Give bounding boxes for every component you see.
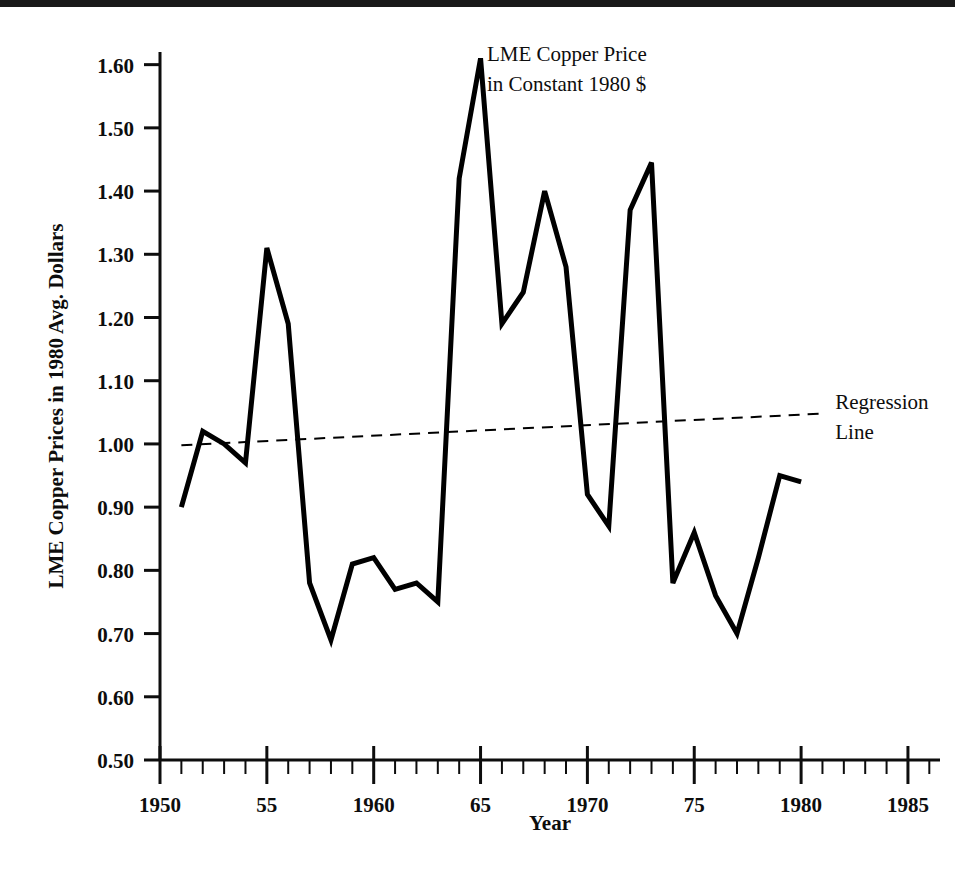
chart-page: 0.500.600.700.800.901.001.101.201.301.40… xyxy=(0,0,955,880)
annotation-layer: LME Copper Pricein Constant 1980 $Regres… xyxy=(487,42,929,444)
y-axis-tick-labels: 0.500.600.700.800.901.001.101.201.301.40… xyxy=(97,54,134,773)
data-series-layer xyxy=(181,58,822,640)
y-tick-label: 0.90 xyxy=(97,496,134,520)
x-axis-major-ticks xyxy=(160,746,908,784)
y-tick-label: 1.20 xyxy=(97,307,134,331)
series-label: LME Copper Price xyxy=(487,42,647,66)
y-axis-ticks xyxy=(144,65,160,760)
x-tick-label: 1980 xyxy=(780,793,822,817)
x-tick-label: 55 xyxy=(256,793,277,817)
copper-price-line-chart: 0.500.600.700.800.901.001.101.201.301.40… xyxy=(0,0,955,880)
x-tick-label: 1985 xyxy=(887,793,929,817)
y-tick-label: 0.60 xyxy=(97,686,134,710)
y-axis-title: LME Copper Prices in 1980 Avg. Dollars xyxy=(44,224,68,589)
y-tick-label: 1.00 xyxy=(97,433,134,457)
price-line xyxy=(181,58,801,640)
x-tick-label: 1960 xyxy=(353,793,395,817)
regression-label: Regression xyxy=(835,390,929,414)
y-tick-label: 1.40 xyxy=(97,180,134,204)
y-tick-label: 1.50 xyxy=(97,117,134,141)
y-tick-label: 0.80 xyxy=(97,559,134,583)
y-tick-label: 1.30 xyxy=(97,243,134,267)
x-axis-title: Year xyxy=(529,811,571,835)
series-label: in Constant 1980 $ xyxy=(487,72,646,96)
y-tick-label: 1.10 xyxy=(97,370,134,394)
plot-area: 0.500.600.700.800.901.001.101.201.301.40… xyxy=(97,42,940,817)
y-tick-label: 1.60 xyxy=(97,54,134,78)
x-tick-label: 75 xyxy=(684,793,705,817)
regression-label: Line xyxy=(835,420,873,444)
y-tick-label: 0.50 xyxy=(97,749,134,773)
y-tick-label: 0.70 xyxy=(97,623,134,647)
x-tick-label: 65 xyxy=(470,793,491,817)
regression-line xyxy=(181,414,822,446)
x-axis-minor-ticks xyxy=(181,760,929,774)
x-tick-label: 1950 xyxy=(139,793,181,817)
x-tick-label: 1970 xyxy=(566,793,608,817)
